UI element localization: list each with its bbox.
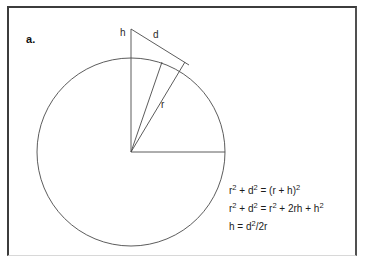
equation-expanded: r2 + d2 = r2 + 2rh + h2 xyxy=(229,200,324,218)
label-distance: d xyxy=(153,29,159,40)
figure-panel: a. h d r r2 + d2 = (r + h)2 r2 + d2 = r2… xyxy=(0,0,368,263)
equation-list: r2 + d2 = (r + h)2 r2 + d2 = r2 + 2rh + … xyxy=(229,182,324,236)
label-radius: r xyxy=(161,99,164,110)
label-height: h xyxy=(120,27,126,38)
panel-label: a. xyxy=(26,33,36,45)
radius-line-tangent xyxy=(131,62,185,152)
equation-pythagorean: r2 + d2 = (r + h)2 xyxy=(229,182,324,200)
radius-line-inner xyxy=(131,62,162,152)
distance-line xyxy=(131,29,189,65)
equation-solved: h = d2/2r xyxy=(229,218,324,236)
